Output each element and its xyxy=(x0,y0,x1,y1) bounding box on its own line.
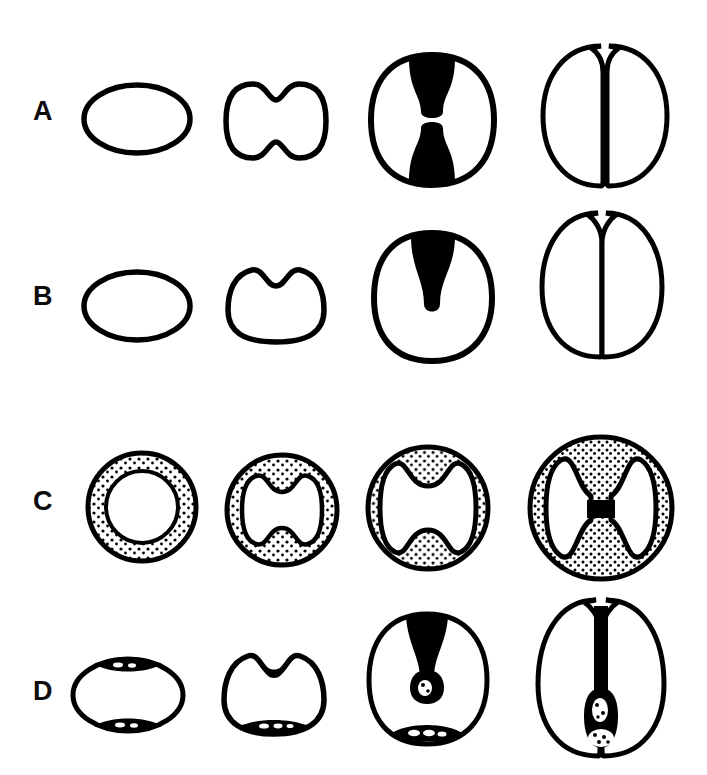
b-stage-3 xyxy=(368,228,498,366)
d-stage-3 xyxy=(362,608,494,750)
b-stage-2 xyxy=(222,262,332,348)
a-stage-3 xyxy=(365,50,500,190)
b-stage-4 xyxy=(532,205,672,365)
d-stage-4 xyxy=(528,592,674,764)
row-label-b: B xyxy=(33,283,53,310)
row-label-a: A xyxy=(33,98,53,125)
b-stage-1 xyxy=(78,265,196,347)
c-stage-3 xyxy=(363,442,493,574)
c-stage-1 xyxy=(83,448,201,566)
row-label-c: C xyxy=(33,488,53,515)
c-stage-4 xyxy=(525,432,677,584)
d-stage-1 xyxy=(68,652,188,738)
c-stage-2 xyxy=(222,450,342,570)
figure-canvas: A B C D xyxy=(0,0,707,775)
d-stage-2 xyxy=(218,648,330,740)
a-stage-2 xyxy=(220,78,332,164)
row-label-d: D xyxy=(33,678,53,705)
a-stage-1 xyxy=(78,78,196,160)
a-stage-4 xyxy=(535,38,675,193)
